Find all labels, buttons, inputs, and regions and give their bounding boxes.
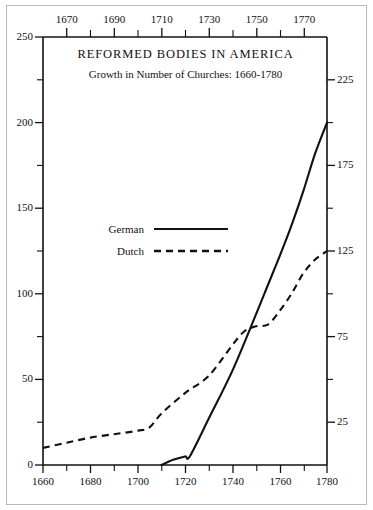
bottom-tick-label-1660: 1660 [23,476,63,487]
top-tick-label-1770: 1770 [284,14,324,25]
top-tick-label-1750: 1750 [237,14,277,25]
series-line-german [161,123,327,465]
top-tick-label-1710: 1710 [142,14,182,25]
legend-label-german: German [88,223,153,235]
left-tick-label-0: 0 [6,459,33,470]
right-tick-label-175: 175 [337,159,367,170]
chart-figure: REFORMED BODIES IN AMERICA Growth in Num… [0,0,373,510]
legend-label-dutch: Dutch [88,245,153,257]
right-tick-label-25: 25 [337,416,367,427]
right-tick-label-225: 225 [337,74,367,85]
left-tick-label-200: 200 [6,117,33,128]
top-axis-ticks [67,28,305,37]
chart-legend: German Dutch [88,218,248,262]
top-tick-label-1690: 1690 [94,14,134,25]
bottom-tick-label-1700: 1700 [118,476,158,487]
bottom-tick-label-1740: 1740 [213,476,253,487]
bottom-tick-label-1680: 1680 [71,476,111,487]
bottom-axis-ticks [43,465,327,473]
legend-swatch-dashed-icon [153,246,229,256]
left-tick-label-50: 50 [6,373,33,384]
series-line-dutch [43,251,327,448]
bottom-tick-label-1780: 1780 [307,476,347,487]
left-tick-label-100: 100 [6,288,33,299]
legend-item-german: German [88,218,248,240]
top-tick-label-1730: 1730 [189,14,229,25]
bottom-tick-label-1720: 1720 [166,476,206,487]
right-tick-label-75: 75 [337,331,367,342]
bottom-tick-label-1760: 1760 [261,476,301,487]
legend-item-dutch: Dutch [88,240,248,262]
right-axis-ticks [327,80,335,422]
left-tick-label-150: 150 [6,202,33,213]
right-tick-label-125: 125 [337,245,367,256]
left-axis-ticks [35,37,43,465]
legend-swatch-solid-icon [153,224,229,234]
left-tick-label-250: 250 [6,31,33,42]
top-tick-label-1670: 1670 [47,14,87,25]
